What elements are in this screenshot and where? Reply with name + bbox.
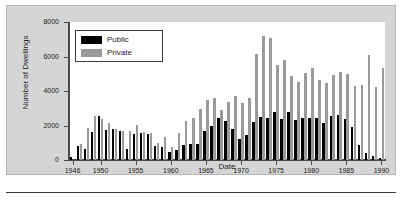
y-axis-tick [64, 126, 68, 127]
figure-container: Number of Dwellings Public Private Date … [6, 5, 396, 175]
x-axis-tick [311, 161, 312, 165]
x-axis-tick [101, 161, 102, 165]
bar-group [259, 22, 266, 160]
legend-swatch-public [81, 36, 102, 44]
y-axis-tick-label: 4000 [43, 87, 59, 94]
x-axis-tick-label: 1975 [268, 167, 284, 174]
bar-group [238, 22, 245, 160]
bar-private [283, 60, 286, 160]
bar-private [115, 129, 118, 160]
bar-private [241, 103, 244, 160]
bar-private [206, 100, 209, 160]
bar-group [301, 22, 308, 160]
x-axis-tick-label: 1955 [128, 167, 144, 174]
x-axis-tick-label: 1960 [163, 167, 179, 174]
bar-private [136, 125, 139, 160]
bar-private [227, 102, 230, 160]
bar-private [382, 68, 385, 160]
y-axis-title: Number of Dwellings [21, 25, 30, 121]
x-axis-tick [276, 161, 277, 165]
bar-group [315, 22, 322, 160]
bar-private [213, 98, 216, 160]
bar-group [174, 22, 181, 160]
x-axis-tick [206, 161, 207, 165]
bar-group [223, 22, 230, 160]
bar-private [178, 133, 181, 160]
bar-public [70, 157, 73, 160]
bar-group [294, 22, 301, 160]
x-axis-tick [241, 161, 242, 165]
bar-private [150, 133, 153, 160]
bar-group [245, 22, 252, 160]
bar-private [220, 110, 223, 160]
bar-private [108, 123, 111, 160]
bar-group [329, 22, 336, 160]
bar-private [262, 36, 265, 160]
legend-label-public: Public [107, 36, 129, 44]
bar-private [87, 128, 90, 160]
bar-private [255, 54, 258, 160]
x-axis-tick [346, 161, 347, 165]
x-axis-tick [381, 161, 382, 165]
x-axis-tick-label: 1970 [233, 167, 249, 174]
bar-private [185, 121, 188, 160]
bar-private [122, 131, 125, 160]
bar-private [157, 143, 160, 160]
bar-group [308, 22, 315, 160]
bar-group [371, 22, 378, 160]
horizontal-rule [6, 192, 396, 193]
bar-private [325, 83, 328, 160]
bar-group [181, 22, 188, 160]
y-axis-tick-label: 6000 [43, 53, 59, 60]
x-axis-tick-label: 1946 [65, 167, 81, 174]
x-axis-tick [73, 161, 74, 165]
bar-group [336, 22, 343, 160]
bar-group [350, 22, 357, 160]
legend-item-private: Private [81, 48, 132, 58]
bar-private [101, 119, 104, 160]
bar-group [188, 22, 195, 160]
bar-private [199, 109, 202, 160]
bar-private [290, 76, 293, 160]
bar-private [332, 75, 335, 160]
y-axis-tick-label: 2000 [43, 122, 59, 129]
bar-group [343, 22, 350, 160]
bar-private [339, 72, 342, 160]
bar-private [143, 132, 146, 160]
bar-group [322, 22, 329, 160]
bar-private [297, 82, 300, 160]
y-axis-tick [64, 57, 68, 58]
bar-private [361, 85, 364, 160]
bar-group [231, 22, 238, 160]
bar-private [311, 68, 314, 160]
bar-private [354, 86, 357, 160]
bar-private [192, 118, 195, 160]
bar-group [195, 22, 202, 160]
bar-private [346, 74, 349, 160]
bar-private [80, 144, 83, 160]
bar-private [94, 116, 97, 160]
chart-legend: Public Private [75, 30, 163, 62]
bar-group [280, 22, 287, 160]
y-axis-tick [64, 160, 68, 161]
bar-group [209, 22, 216, 160]
bar-group [357, 22, 364, 160]
x-axis-tick [171, 161, 172, 165]
bar-private [375, 87, 378, 160]
bar-private [234, 96, 237, 161]
y-axis-tick [64, 22, 68, 23]
bar-group [287, 22, 294, 160]
bar-private [276, 65, 279, 160]
bar-private [129, 131, 132, 160]
y-axis-tick-label: 0 [55, 156, 59, 163]
x-axis-tick-label: 1950 [93, 167, 109, 174]
bar-private [318, 80, 321, 160]
bar-private [171, 147, 174, 160]
x-axis-tick-label: 1990 [374, 167, 390, 174]
bar-private [368, 55, 371, 160]
x-axis-tick-label: 1980 [303, 167, 319, 174]
x-axis-tick-label: 1965 [198, 167, 214, 174]
legend-swatch-private [81, 49, 102, 57]
bar-group [216, 22, 223, 160]
x-axis-tick [136, 161, 137, 165]
